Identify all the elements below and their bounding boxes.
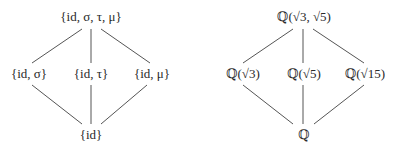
node-trivial-subgroup: {id}: [80, 127, 103, 143]
node-field-q-sqrt15: ℚ(√15): [345, 66, 385, 82]
node-field-q-sqrt5: ℚ(√5): [287, 66, 321, 82]
node-field-q-sqrt3-sqrt5: ℚ(√3, √5): [277, 9, 331, 25]
node-full-group: {id, σ, τ, μ}: [60, 9, 121, 25]
node-subgroup-tau: {id, τ}: [74, 66, 108, 82]
field-lattice-diagram: ℚ(√3, √5) ℚ(√3) ℚ(√5) ℚ(√15) ℚ: [196, 0, 393, 156]
node-subgroup-sigma: {id, σ}: [11, 66, 47, 82]
node-subgroup-mu: {id, μ}: [134, 66, 170, 82]
node-field-q-sqrt3: ℚ(√3): [226, 66, 260, 82]
subgroup-lattice-diagram: {id, σ, τ, μ} {id, σ} {id, τ} {id, μ} {i…: [0, 0, 196, 156]
node-field-q: ℚ: [298, 127, 309, 143]
